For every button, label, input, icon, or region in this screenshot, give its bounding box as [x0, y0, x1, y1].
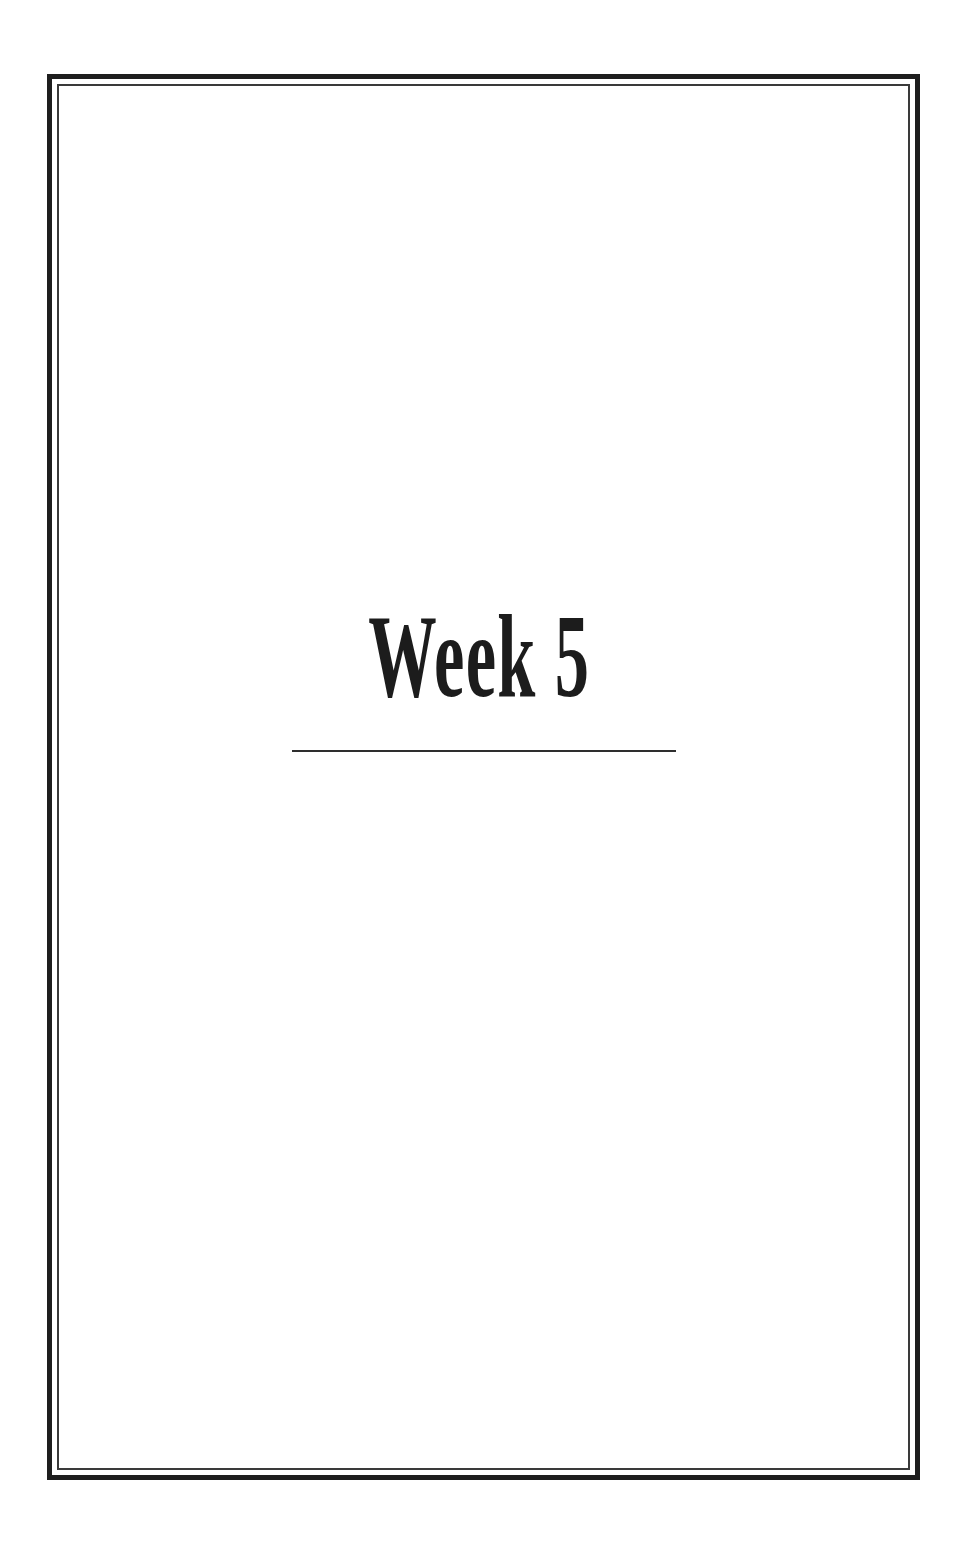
title-container: Week 5 [0, 598, 958, 716]
title-underline-rule [292, 750, 676, 752]
page-title: Week 5 [368, 598, 590, 716]
inner-border-frame [57, 84, 910, 1470]
